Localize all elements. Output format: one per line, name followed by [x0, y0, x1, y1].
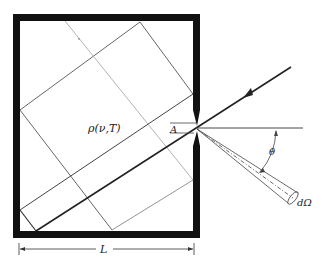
- incident-ray: [36, 67, 291, 231]
- length-label: L: [99, 243, 107, 256]
- solid-angle-label: dΩ: [297, 197, 312, 208]
- solid-angle-cone: [197, 129, 300, 206]
- energy-density-label: ρ(ν,T): [87, 122, 121, 135]
- blackbody-cavity-diagram: ρ(ν,T) A θ dΩ L: [0, 0, 330, 264]
- aperture-area-label: A: [169, 124, 177, 135]
- angle-theta-label: θ: [269, 146, 275, 157]
- arrowhead-icon: [243, 88, 253, 98]
